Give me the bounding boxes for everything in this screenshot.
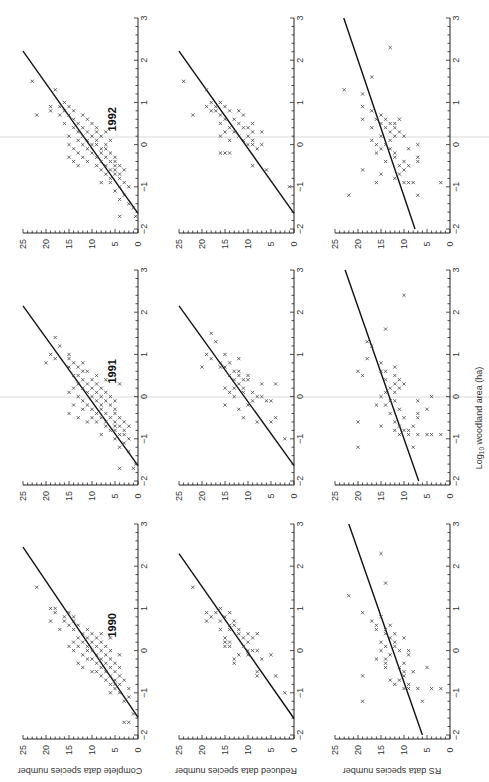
data-point (393, 645, 396, 648)
species-tick-label: 10 (87, 745, 97, 755)
data-point (127, 695, 130, 698)
data-point (118, 173, 121, 176)
data-point (214, 109, 217, 112)
data-point (118, 198, 121, 201)
data-point (237, 370, 240, 373)
data-point (113, 420, 116, 423)
data-point (113, 425, 116, 428)
species-tick-label: 0 (289, 241, 299, 246)
log-area-tick-label: 0 (451, 394, 461, 399)
data-point (67, 624, 70, 627)
data-point (100, 674, 103, 677)
data-point (210, 357, 213, 360)
data-point (393, 632, 396, 635)
species-tick-label: 5 (266, 241, 276, 246)
data-point (109, 168, 112, 171)
data-point (384, 662, 387, 665)
data-point (49, 607, 52, 610)
data-point (402, 636, 405, 639)
species-tick-label: 20 (41, 239, 51, 249)
data-point (219, 151, 222, 154)
data-point (113, 164, 116, 167)
data-point (233, 118, 236, 121)
data-point (118, 164, 121, 167)
data-point (90, 387, 93, 390)
y-axis-title-reduced: Reduced data species number (175, 766, 297, 776)
log-area-tick-label: 3 (295, 15, 305, 20)
data-point (398, 164, 401, 167)
data-point (95, 391, 98, 394)
species-tick-label: 5 (422, 747, 432, 752)
data-point (127, 721, 130, 724)
data-point (109, 691, 112, 694)
data-point (407, 181, 410, 184)
data-point (416, 194, 419, 197)
regression-line (179, 306, 294, 466)
data-point (242, 387, 245, 390)
species-tick-label: 0 (133, 493, 143, 498)
species-tick-label: 25 (330, 491, 340, 501)
data-point (109, 151, 112, 154)
panel-1992-reduced-data: −2−101230510152025 (174, 15, 305, 249)
data-point (407, 164, 410, 167)
log-area-tick-label: 0 (295, 394, 305, 399)
data-point (67, 357, 70, 360)
data-point (416, 399, 419, 402)
data-point (49, 353, 52, 356)
log-area-tick-label: −2 (295, 730, 305, 740)
data-point (81, 666, 84, 669)
species-tick-label: 15 (220, 491, 230, 501)
log-area-tick-label: 2 (139, 310, 149, 315)
data-point (402, 429, 405, 432)
data-point (104, 391, 107, 394)
data-point (72, 126, 75, 129)
log-area-tick-label: 1 (451, 352, 461, 357)
data-point (389, 46, 392, 49)
data-point (370, 126, 373, 129)
data-point (90, 641, 93, 644)
data-point (389, 624, 392, 627)
data-point (347, 594, 350, 597)
data-point (214, 611, 217, 614)
log-area-tick-label: 0 (139, 648, 149, 653)
log-area-tick-label: 1 (139, 100, 149, 105)
data-point (260, 382, 263, 385)
data-point (233, 130, 236, 133)
data-point (370, 109, 373, 112)
data-point (393, 399, 396, 402)
data-point (123, 679, 126, 682)
data-point (379, 361, 382, 364)
species-tick-label: 20 (197, 491, 207, 501)
data-point (384, 657, 387, 660)
data-point (398, 378, 401, 381)
log-area-tick-label: 3 (139, 521, 149, 526)
data-point (72, 361, 75, 364)
data-point (54, 357, 57, 360)
data-point (389, 387, 392, 390)
data-point (58, 105, 61, 108)
data-point (127, 437, 130, 440)
data-point (86, 657, 89, 660)
data-point (95, 143, 98, 146)
species-tick-label: 10 (399, 491, 409, 501)
data-point (95, 670, 98, 673)
data-point (72, 615, 75, 618)
species-tick-label: 15 (220, 239, 230, 249)
data-point (104, 147, 107, 150)
data-point (54, 611, 57, 614)
data-point (251, 139, 254, 142)
data-point (384, 378, 387, 381)
data-point (100, 408, 103, 411)
data-point (205, 105, 208, 108)
data-point (81, 361, 84, 364)
data-point (375, 628, 378, 631)
data-point (118, 683, 121, 686)
data-point (67, 645, 70, 648)
data-point (393, 126, 396, 129)
species-tick-label: 5 (422, 493, 432, 498)
data-point (100, 632, 103, 635)
data-point (375, 181, 378, 184)
data-point (72, 118, 75, 121)
data-point (123, 700, 126, 703)
panel-1991-reduced-data: −2−101230510152025 (174, 267, 305, 501)
